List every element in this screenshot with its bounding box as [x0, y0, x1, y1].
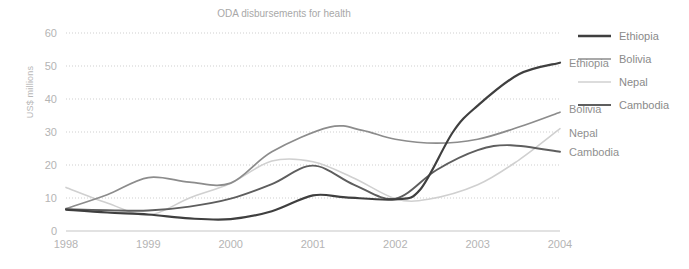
- y-axis-tick-label: 0: [51, 225, 57, 237]
- x-axis-tick-label: 2004: [548, 238, 572, 250]
- y-axis-tick-labels: 0102030405060: [45, 27, 57, 237]
- y-axis-tick-label: 40: [45, 93, 57, 105]
- chart-legend: EthiopiaBoliviaNepalCambodia: [578, 30, 670, 111]
- series-line-nepal: [66, 129, 560, 216]
- series-line-cambodia: [66, 145, 560, 211]
- legend-label-ethiopia[interactable]: Ethiopia: [619, 30, 660, 42]
- x-axis-tick-label: 1998: [54, 238, 78, 250]
- x-axis-tick-label: 2003: [465, 238, 489, 250]
- y-axis-tick-label: 10: [45, 192, 57, 204]
- series-end-label-nepal: Nepal: [569, 127, 598, 139]
- x-axis-tick-label: 2000: [218, 238, 242, 250]
- y-axis-tick-label: 50: [45, 60, 57, 72]
- legend-label-cambodia[interactable]: Cambodia: [619, 99, 670, 111]
- y-axis-title: US$ millions: [25, 65, 35, 118]
- series-end-labels: EthiopiaBoliviaNepalCambodia: [569, 57, 620, 158]
- legend-label-nepal[interactable]: Nepal: [619, 76, 648, 88]
- series-end-label-cambodia: Cambodia: [569, 146, 620, 158]
- data-series-lines: [66, 63, 560, 220]
- series-line-bolivia: [66, 112, 560, 208]
- chart-title: ODA disbursements for health: [217, 8, 350, 19]
- legend-label-bolivia[interactable]: Bolivia: [619, 53, 652, 65]
- oda-health-line-chart: ODA disbursements for health US$ million…: [0, 0, 689, 269]
- series-line-ethiopia: [66, 63, 560, 220]
- y-axis-tick-label: 20: [45, 159, 57, 171]
- y-axis-tick-label: 30: [45, 126, 57, 138]
- chart-container: ODA disbursements for health US$ million…: [0, 0, 689, 269]
- x-axis-tick-label: 2001: [301, 238, 325, 250]
- x-axis-tick-label: 1999: [136, 238, 160, 250]
- x-axis-tick-labels: 1998199920002001200220032004: [54, 238, 572, 250]
- x-axis-tick-label: 2002: [383, 238, 407, 250]
- y-axis-tick-label: 60: [45, 27, 57, 39]
